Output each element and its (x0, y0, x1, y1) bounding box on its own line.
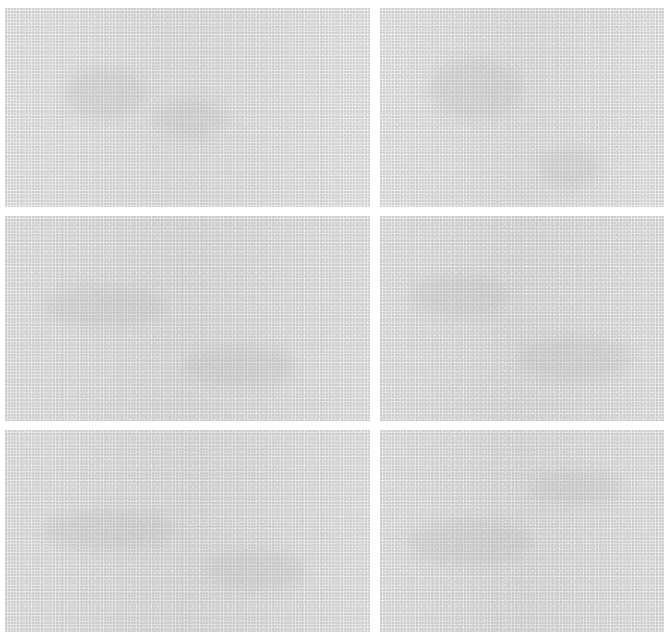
scan-patch-r2-c1 (5, 216, 370, 421)
scan-patch-r3-c1 (5, 430, 370, 632)
scan-patch-r1-c1 (5, 8, 370, 207)
scan-patch-grid (5, 8, 664, 632)
scan-patch-r2-c2 (380, 216, 664, 421)
scan-patch-r1-c2 (380, 8, 664, 207)
scan-patch-r3-c2 (380, 430, 664, 632)
